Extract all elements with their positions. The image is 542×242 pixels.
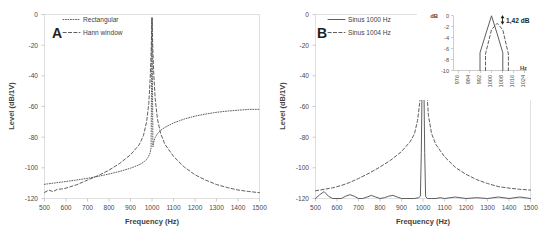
panel-b-ytick-1: -20 bbox=[299, 42, 309, 49]
inset-annotation-label: 1,42 dB bbox=[506, 17, 530, 25]
panel-b-ytick-6: -120 bbox=[296, 195, 310, 202]
panel-a-ytick-0: 0 bbox=[34, 11, 38, 18]
panel-b-legend-label-sinus-1004: Sinus 1004 Hz bbox=[348, 29, 391, 36]
panel-b-xtick-6: 1100 bbox=[437, 204, 452, 211]
panel-b-xtick-8: 1300 bbox=[480, 204, 495, 211]
panel-b-xtick-3: 800 bbox=[374, 204, 385, 211]
inset-xtick-5: 1016 bbox=[509, 75, 515, 87]
panel-a-y-ticks bbox=[42, 15, 45, 199]
inset-ytick-5: -10 bbox=[441, 68, 449, 74]
inset-xtick-6: 1024 bbox=[520, 75, 526, 87]
inset-xtick-2: 992 bbox=[476, 75, 482, 84]
inset-xtick-3: 1000 bbox=[487, 75, 493, 87]
panel-a-x-axis-title: Frequency (Hz) bbox=[125, 217, 180, 226]
panel-b-legend-label-sinus-1000: Sinus 1000 Hz bbox=[348, 16, 391, 23]
panel-b-xtick-1: 600 bbox=[331, 204, 342, 211]
panel-b-ytick-5: -100 bbox=[296, 164, 310, 171]
panel-a-legend-label-hann: Hann window bbox=[83, 29, 123, 36]
inset-ytick-2: -4 bbox=[444, 35, 449, 41]
panel-a-xtick-10: 1500 bbox=[252, 204, 267, 211]
inset-ytick-0: 0 bbox=[446, 13, 449, 19]
panel-a-letter: A bbox=[52, 25, 62, 41]
panel-b-legend: Sinus 1000 Hz Sinus 1004 Hz bbox=[328, 16, 391, 36]
panel-a-xtick-6: 1100 bbox=[166, 204, 181, 211]
panel-a-xtick-4: 900 bbox=[125, 204, 136, 211]
panel-a-legend: Rectangular Hann window bbox=[63, 16, 123, 36]
panel-b-xtick-4: 900 bbox=[396, 204, 407, 211]
panel-a-xtick-5: 1000 bbox=[145, 204, 160, 211]
inset-ytick-1: -2 bbox=[444, 24, 449, 30]
panel-b-y-ticks bbox=[313, 15, 316, 199]
panel-a-xtick-3: 800 bbox=[103, 204, 114, 211]
panel-b-ytick-4: -80 bbox=[299, 134, 309, 141]
inset-xtick-0: 976 bbox=[454, 75, 460, 84]
inset-y-axis-title: dB bbox=[430, 13, 438, 19]
panel-b-ytick-2: -40 bbox=[299, 72, 309, 79]
panel-a-xtick-7: 1200 bbox=[188, 204, 203, 211]
panel-a-y-axis-title: Level (dB/1V) bbox=[7, 82, 16, 130]
panel-b-xtick-0: 500 bbox=[310, 204, 321, 211]
inset-ytick-3: -6 bbox=[444, 46, 449, 52]
panel-a-ytick-4: -80 bbox=[28, 134, 38, 141]
panel-a-xtick-8: 1300 bbox=[209, 204, 224, 211]
panel-a-xtick-9: 1400 bbox=[231, 204, 246, 211]
panel-a-ytick-2: -40 bbox=[28, 72, 38, 79]
panel-a-xtick-0: 500 bbox=[39, 204, 50, 211]
panel-a-ytick-1: -20 bbox=[28, 42, 38, 49]
panel-b-ytick-0: 0 bbox=[305, 11, 309, 18]
inset-x-axis-title: Hz bbox=[520, 65, 527, 71]
inset-xtick-1: 984 bbox=[465, 75, 471, 84]
panel-b-x-axis-title: Frequency (Hz) bbox=[396, 217, 451, 226]
inset-xtick-4: 1008 bbox=[498, 75, 504, 87]
panel-a-curve-rectangular bbox=[45, 18, 260, 185]
panel-b-letter: B bbox=[317, 25, 327, 41]
panel-a-y-tick-labels: 0 -20 -40 -60 -80 -100 -120 bbox=[25, 11, 39, 202]
panel-b-xtick-10: 1500 bbox=[523, 204, 538, 211]
panel-b: 0 -20 -40 -60 -80 -100 -120 500 600 700 … bbox=[271, 0, 542, 242]
panel-a-ytick-5: -100 bbox=[25, 164, 39, 171]
panel-a-x-ticks bbox=[45, 199, 260, 202]
panel-a-ytick-6: -120 bbox=[25, 195, 39, 202]
panel-b-y-axis-title: Level (dB/1V) bbox=[278, 82, 287, 130]
panel-a-x-tick-labels: 500 600 700 800 900 1000 1100 1200 1300 … bbox=[39, 204, 267, 211]
panel-b-inset: 0 -2 -4 -6 -8 -10 dB Hz 976 984 992 1000… bbox=[417, 12, 535, 100]
inset-ytick-4: -8 bbox=[444, 57, 449, 63]
panel-a-plot: 0 -20 -40 -60 -80 -100 -120 500 600 700 … bbox=[0, 0, 271, 242]
panel-b-x-ticks bbox=[316, 199, 531, 202]
panel-b-y-tick-labels: 0 -20 -40 -60 -80 -100 -120 bbox=[296, 11, 310, 202]
panel-a: 0 -20 -40 -60 -80 -100 -120 500 600 700 … bbox=[0, 0, 271, 242]
panel-a-xtick-1: 600 bbox=[60, 204, 71, 211]
panel-a-xtick-2: 700 bbox=[82, 204, 93, 211]
panel-b-xtick-5: 1000 bbox=[416, 204, 431, 211]
panel-a-ytick-3: -60 bbox=[28, 103, 38, 110]
panel-a-legend-label-rectangular: Rectangular bbox=[83, 16, 119, 24]
panel-b-xtick-2: 700 bbox=[353, 204, 364, 211]
panel-b-plot: 0 -20 -40 -60 -80 -100 -120 500 600 700 … bbox=[271, 0, 542, 242]
panel-b-xtick-7: 1200 bbox=[459, 204, 474, 211]
panel-b-x-tick-labels: 500 600 700 800 900 1000 1100 1200 1300 … bbox=[310, 204, 538, 211]
panel-b-xtick-9: 1400 bbox=[502, 204, 517, 211]
figure-container: 0 -20 -40 -60 -80 -100 -120 500 600 700 … bbox=[0, 0, 542, 242]
panel-b-ytick-3: -60 bbox=[299, 103, 309, 110]
